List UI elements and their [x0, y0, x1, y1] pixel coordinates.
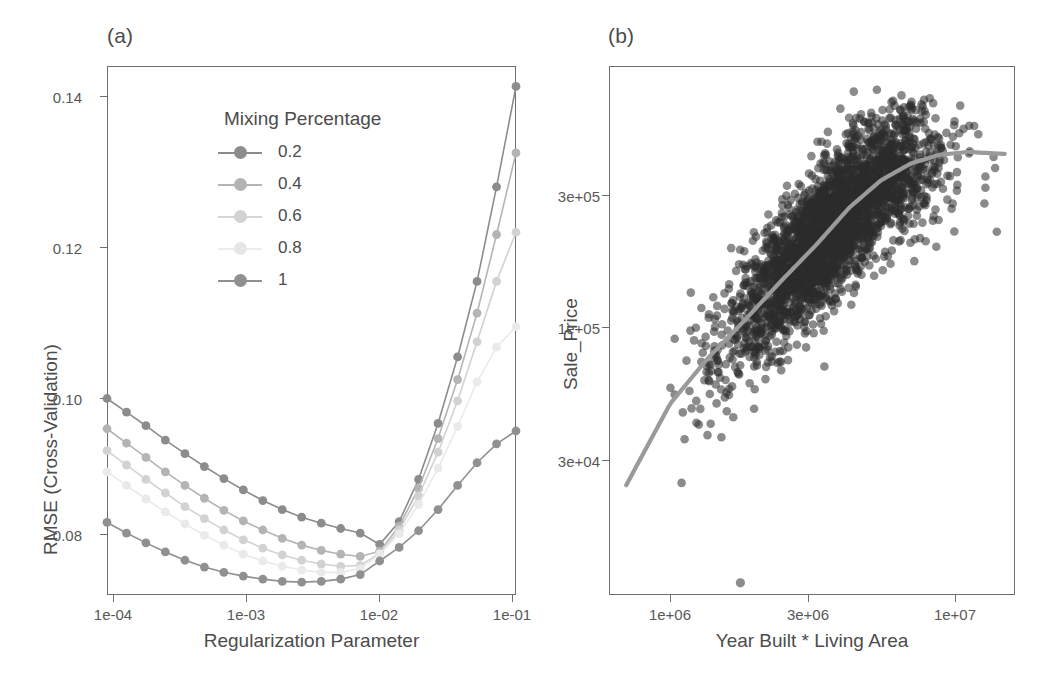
scatter-point [850, 87, 859, 96]
scatter-point [750, 228, 759, 237]
scatter-point [883, 212, 892, 221]
series-point [239, 572, 248, 581]
series-point [278, 562, 287, 571]
series-point [434, 464, 443, 473]
series-point [200, 494, 209, 503]
scatter-point [991, 164, 1000, 173]
scatter-point [816, 222, 825, 231]
scatter-point [974, 130, 983, 139]
scatter-point [880, 133, 889, 142]
scatter-point [687, 288, 696, 297]
series-point [122, 408, 131, 417]
panel-b-x-tick-1: 3e+06 [768, 606, 848, 623]
scatter-point [705, 310, 714, 319]
scatter-point [734, 340, 743, 349]
series-point [181, 556, 190, 565]
series-point [512, 228, 521, 237]
panel-a-x-tickmark [113, 595, 114, 602]
series-point [142, 538, 151, 547]
series-point [122, 461, 131, 470]
legend-title: Mixing Percentage [224, 108, 381, 130]
figure-container: (a) RMSE (Cross-Validation) 0.14 0.12 0.… [0, 0, 1044, 677]
scatter-point [827, 244, 836, 253]
scatter-point [921, 237, 930, 246]
legend-swatch-dot [234, 210, 247, 223]
scatter-point [776, 218, 785, 227]
scatter-point [709, 293, 718, 302]
scatter-point [879, 266, 888, 275]
series-point [473, 309, 482, 318]
scatter-point [838, 274, 847, 283]
scatter-point [849, 228, 858, 237]
series-point [356, 552, 365, 561]
series-point [219, 526, 228, 535]
scatter-point [685, 387, 694, 396]
scatter-point [909, 201, 918, 210]
scatter-point [859, 145, 868, 154]
scatter-point [903, 124, 912, 133]
legend-swatch-dot [234, 274, 247, 287]
series-point [492, 277, 501, 286]
scatter-point [736, 246, 745, 255]
series-point [239, 550, 248, 559]
series-point [297, 578, 306, 587]
scatter-point [868, 140, 877, 149]
series-point [103, 518, 112, 527]
scatter-point [768, 330, 777, 339]
series-point [512, 149, 521, 158]
scatter-point [825, 296, 834, 305]
series-point [492, 183, 501, 192]
legend-item-2[interactable]: 0.6 [218, 204, 398, 230]
series-point [297, 556, 306, 565]
series-point [258, 544, 267, 553]
legend-item-3[interactable]: 0.8 [218, 236, 398, 262]
series-point [297, 566, 306, 575]
series-point [434, 434, 443, 443]
scatter-point [798, 243, 807, 252]
series-point [317, 519, 326, 528]
scatter-point [980, 199, 989, 208]
panel-b-x-tickmark [955, 595, 956, 602]
scatter-point [836, 201, 845, 210]
scatter-point [687, 404, 696, 413]
series-point [181, 481, 190, 490]
legend-item-0[interactable]: 0.2 [218, 140, 398, 166]
scatter-point [670, 334, 679, 343]
series-point [336, 550, 345, 559]
panel-a: (a) RMSE (Cross-Validation) 0.14 0.12 0.… [0, 0, 540, 677]
scatter-point [904, 212, 913, 221]
scatter-point [768, 357, 777, 366]
scatter-point [847, 301, 856, 310]
scatter-point [745, 379, 754, 388]
series-point [161, 467, 170, 476]
scatter-point [942, 129, 951, 138]
scatter-point [761, 375, 770, 384]
legend-item-1[interactable]: 0.4 [218, 172, 398, 198]
series-point [453, 396, 462, 405]
scatter-point [871, 222, 880, 231]
scatter-point [824, 207, 833, 216]
series-point [161, 489, 170, 498]
scatter-point [770, 236, 779, 245]
scatter-point [809, 320, 818, 329]
scatter-point [929, 212, 938, 221]
legend-swatch-dot [234, 178, 247, 191]
scatter-point [777, 358, 786, 367]
scatter-point [981, 172, 990, 181]
series-point [492, 439, 501, 448]
scatter-point [858, 165, 867, 174]
scatter-point [806, 263, 815, 272]
scatter-point [857, 270, 866, 279]
scatter-point [891, 139, 900, 148]
scatter-point [878, 106, 887, 115]
scatter-point [803, 215, 812, 224]
scatter-point [850, 260, 859, 269]
panel-b-x-tickmark [670, 595, 671, 602]
series-point [200, 563, 209, 572]
scatter-point [838, 253, 847, 262]
scatter-point [756, 280, 765, 289]
legend-item-4[interactable]: 1 [218, 268, 398, 294]
series-point [453, 353, 462, 362]
scatter-point [721, 393, 730, 402]
scatter-point [884, 158, 893, 167]
